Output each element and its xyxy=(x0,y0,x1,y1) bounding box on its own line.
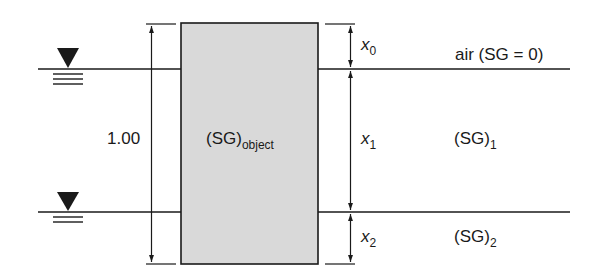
bottom-sg-main: (SG) xyxy=(454,227,490,246)
total-height-value: 1.00 xyxy=(107,129,140,148)
x0-label: x0 xyxy=(361,36,376,53)
middle-sg-main: (SG) xyxy=(454,129,490,148)
total-height-label: 1.00 xyxy=(107,130,140,147)
water-surface-icon xyxy=(53,48,83,84)
x0-sub: 0 xyxy=(370,44,377,58)
object-sg-sub: object xyxy=(242,138,274,152)
x2-label: x2 xyxy=(361,228,376,245)
x1-label: x1 xyxy=(361,130,376,147)
bottom-layer-label: (SG)2 xyxy=(454,228,497,245)
object-sg-label: (SG)object xyxy=(206,130,274,147)
x0-symbol: x xyxy=(361,35,370,54)
x0-dimension xyxy=(325,24,355,67)
x2-dimension xyxy=(325,214,355,264)
bottom-sg-sub: 2 xyxy=(490,236,497,250)
middle-sg-sub: 1 xyxy=(490,138,497,152)
x2-sub: 2 xyxy=(370,236,377,250)
diagram-canvas xyxy=(0,0,598,280)
total-height-dimension xyxy=(146,24,176,264)
interface-surface-icon xyxy=(53,192,83,222)
x2-symbol: x xyxy=(361,227,370,246)
air-layer-label: air (SG = 0) xyxy=(455,46,543,63)
middle-layer-label: (SG)1 xyxy=(454,130,497,147)
air-layer-text: air (SG = 0) xyxy=(455,45,543,64)
object-sg-main: (SG) xyxy=(206,129,242,148)
x1-sub: 1 xyxy=(370,138,377,152)
x1-symbol: x xyxy=(361,129,370,148)
